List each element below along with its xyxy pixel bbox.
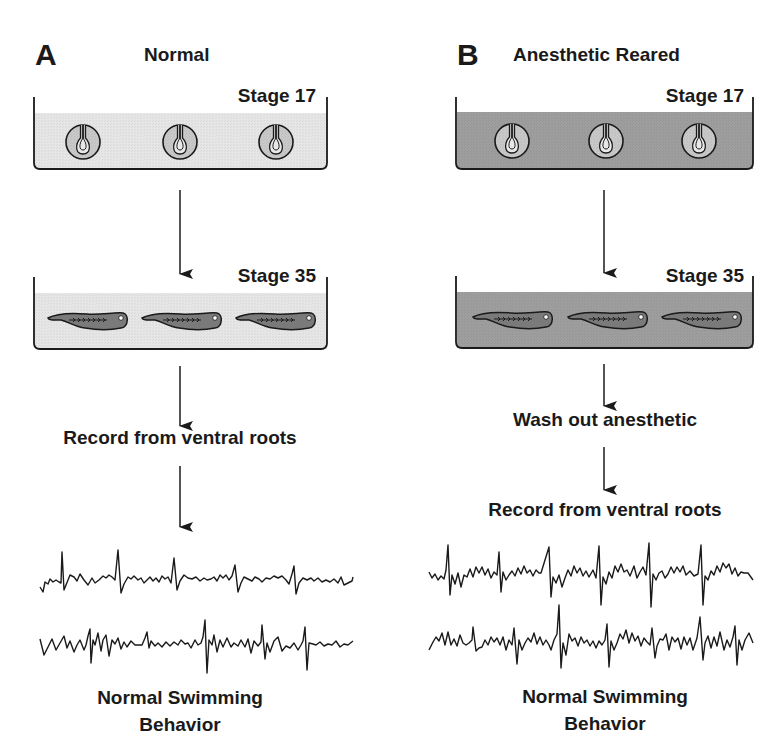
embryo-icon xyxy=(495,124,529,158)
panel-b-stage17-dish xyxy=(456,97,753,169)
embryo-icon xyxy=(163,125,197,159)
embryo-icon xyxy=(259,125,293,159)
panel-b-trace-2 xyxy=(429,605,753,668)
embryo-icon xyxy=(682,124,716,158)
embryo-icon xyxy=(589,124,623,158)
panel-a-trace-2 xyxy=(40,620,353,673)
diagram-graphics xyxy=(0,0,774,753)
panel-a-trace-1 xyxy=(40,550,353,594)
panel-a-stage35-dish xyxy=(34,277,327,349)
embryo-icon xyxy=(66,125,100,159)
panel-a-stage17-dish xyxy=(34,97,327,169)
panel-b-stage35-dish xyxy=(456,276,753,348)
panel-b-trace-1 xyxy=(429,543,753,607)
